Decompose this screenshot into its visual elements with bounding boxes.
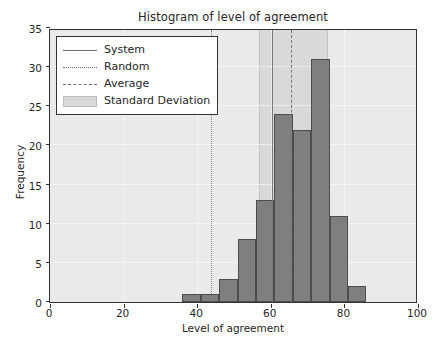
x-tick-label: 0 — [46, 307, 53, 319]
legend-item-system: System — [63, 41, 210, 58]
y-tick — [46, 144, 50, 145]
gridline-horizontal — [50, 262, 416, 263]
y-tick-label: 10 — [0, 219, 42, 231]
legend-label: Standard Deviation — [104, 94, 210, 107]
y-tick — [46, 223, 50, 224]
y-tick — [46, 184, 50, 185]
y-tick-label: 25 — [0, 101, 42, 113]
legend-key-dotted-line — [63, 61, 97, 73]
legend-item-average: Average — [63, 75, 210, 92]
legend-swatch-icon — [63, 96, 97, 107]
reference-line-average — [291, 30, 292, 302]
histogram-bar — [182, 294, 200, 302]
gridline-horizontal — [50, 144, 416, 145]
y-tick — [46, 301, 50, 302]
histogram-bar — [201, 294, 219, 302]
y-tick-label: 5 — [0, 258, 42, 270]
histogram-bar — [311, 59, 329, 302]
y-tick-label: 15 — [0, 180, 42, 192]
histogram-bar — [330, 216, 348, 302]
legend-line-icon — [63, 67, 97, 68]
y-tick — [46, 105, 50, 106]
histogram-bar — [219, 279, 237, 302]
x-axis-title: Level of agreement — [49, 322, 417, 334]
legend-key-shaded-patch — [63, 95, 97, 107]
x-tick-label: 100 — [407, 307, 427, 319]
gridline-horizontal — [50, 184, 416, 185]
x-tick-label: 40 — [190, 307, 203, 319]
y-tick-label: 30 — [0, 62, 42, 74]
legend-label: Average — [104, 77, 149, 90]
y-tick-label: 20 — [0, 140, 42, 152]
legend-item-random: Random — [63, 58, 210, 75]
legend-label: System — [104, 43, 145, 56]
y-tick-label: 0 — [0, 297, 42, 309]
reference-line-system — [272, 30, 273, 302]
figure: Histogram of level of agreement Frequenc… — [0, 0, 437, 349]
legend: SystemRandomAverageStandard Deviation — [56, 36, 218, 115]
y-tick-label: 35 — [0, 23, 42, 35]
gridline-horizontal — [50, 223, 416, 224]
legend-label: Random — [104, 60, 150, 73]
legend-key-dashed-line — [63, 78, 97, 90]
y-tick — [46, 27, 50, 28]
y-tick — [46, 262, 50, 263]
x-tick-label: 20 — [116, 307, 129, 319]
histogram-bar — [293, 130, 311, 302]
x-tick-label: 60 — [263, 307, 276, 319]
x-tick-label: 80 — [337, 307, 350, 319]
legend-item-standard-deviation: Standard Deviation — [63, 92, 210, 109]
legend-line-icon — [63, 84, 97, 85]
legend-key-solid-line — [63, 44, 97, 56]
histogram-bar — [238, 239, 256, 302]
histogram-bar — [348, 286, 366, 302]
chart-title: Histogram of level of agreement — [49, 10, 417, 24]
y-tick — [46, 66, 50, 67]
legend-line-icon — [63, 50, 97, 51]
